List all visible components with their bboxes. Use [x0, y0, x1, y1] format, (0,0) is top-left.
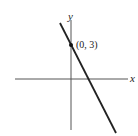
point-label: (0, 3)	[76, 39, 98, 51]
graph: y x (0, 3)	[0, 0, 138, 136]
x-axis-label: x	[129, 72, 135, 84]
intercept-point	[69, 43, 73, 47]
y-axis-label: y	[67, 10, 73, 22]
